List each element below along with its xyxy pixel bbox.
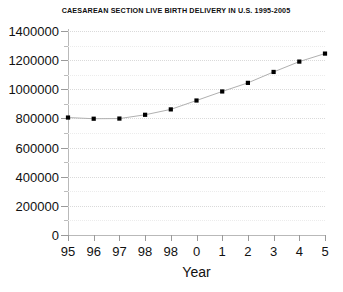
- x-axis-label: 98: [164, 244, 178, 259]
- x-axis-label: 1: [219, 244, 226, 259]
- data-point-marker: [297, 60, 301, 64]
- series-svg: [68, 31, 325, 235]
- plot-area: [68, 31, 325, 235]
- x-axis-tick: [325, 235, 326, 241]
- data-point-marker: [66, 115, 70, 119]
- y-axis-label: 200000: [0, 198, 59, 213]
- y-axis-tick: [61, 177, 68, 178]
- x-axis-tick: [197, 235, 198, 241]
- data-point-marker: [143, 113, 147, 117]
- x-axis-label: 95: [61, 244, 75, 259]
- data-point-marker: [272, 70, 276, 74]
- y-axis-label: 400000: [0, 169, 59, 184]
- x-axis-label: 4: [296, 244, 303, 259]
- y-axis-tick: [61, 89, 68, 90]
- y-axis-label: 800000: [0, 111, 59, 126]
- y-axis-tick: [61, 60, 68, 61]
- x-axis-tick: [274, 235, 275, 241]
- x-axis-label: 97: [112, 244, 126, 259]
- chart-title: CAESAREAN SECTION LIVE BIRTH DELIVERY IN…: [48, 6, 304, 15]
- x-axis-tick: [299, 235, 300, 241]
- y-axis-label: 0: [0, 228, 59, 243]
- x-axis-tick: [94, 235, 95, 241]
- y-axis-label: 1000000: [0, 82, 59, 97]
- data-point-marker: [246, 81, 250, 85]
- y-axis-tick: [61, 235, 68, 236]
- data-point-marker: [220, 89, 224, 93]
- x-axis-tick: [248, 235, 249, 241]
- y-axis-tick: [61, 31, 68, 32]
- x-axis-tick: [222, 235, 223, 241]
- data-point-marker: [117, 116, 121, 120]
- x-axis-label: 96: [86, 244, 100, 259]
- data-point-marker: [169, 107, 173, 111]
- y-axis-label: 1200000: [0, 53, 59, 68]
- x-axis-tick: [68, 235, 69, 241]
- data-point-marker: [92, 117, 96, 121]
- chart-container: CAESAREAN SECTION LIVE BIRTH DELIVERY IN…: [0, 0, 343, 292]
- y-axis-tick: [61, 206, 68, 207]
- x-axis-label: 0: [193, 244, 200, 259]
- y-axis-label: 1400000: [0, 24, 59, 39]
- x-axis-label: 98: [138, 244, 152, 259]
- data-point-marker: [323, 51, 327, 55]
- x-axis-label: 3: [270, 244, 277, 259]
- x-axis-tick: [171, 235, 172, 241]
- x-axis-title: Year: [68, 264, 325, 280]
- x-axis-label: 5: [321, 244, 328, 259]
- x-axis-label: 2: [244, 244, 251, 259]
- x-axis-tick: [145, 235, 146, 241]
- series-line: [68, 54, 325, 119]
- y-axis-tick: [61, 148, 68, 149]
- series-layer: [68, 31, 325, 235]
- y-axis-label: 600000: [0, 140, 59, 155]
- x-axis-tick: [119, 235, 120, 241]
- data-point-marker: [194, 98, 198, 102]
